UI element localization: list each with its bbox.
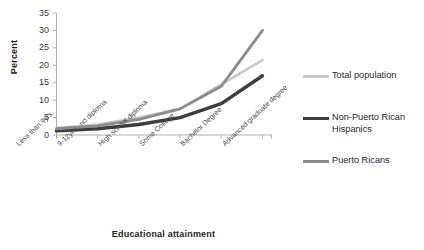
legend-swatch-icon-1	[303, 117, 329, 120]
y-tick-10: 10	[23, 96, 49, 105]
y-tick-15: 15	[23, 78, 49, 87]
legend-label-0: Total population	[332, 70, 396, 82]
y-tick-20: 20	[23, 61, 49, 70]
cropped-chart-title	[60, 0, 360, 3]
y-tick-35: 35	[23, 9, 49, 18]
x-axis-title: Educational attainment	[56, 229, 271, 239]
legend-label-2: Puerto Ricans	[332, 155, 390, 167]
legend-label-1: Non-Puerto Rican Hispanics	[332, 112, 424, 135]
y-axis-title: Percent	[9, 17, 19, 97]
legend-swatch-icon-2	[303, 160, 329, 163]
y-tick-30: 30	[23, 26, 49, 35]
line-chart: Percent Educational attainment 353025201…	[0, 0, 424, 250]
y-tick-25: 25	[23, 43, 49, 52]
legend-item-0[interactable]: Total population	[303, 70, 396, 82]
legend-swatch-icon-0	[303, 75, 329, 78]
legend-item-1[interactable]: Non-Puerto Rican Hispanics	[303, 112, 424, 135]
legend-item-2[interactable]: Puerto Ricans	[303, 155, 390, 167]
